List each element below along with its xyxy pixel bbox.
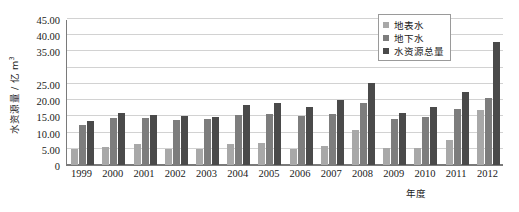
legend-label: 地表水 — [394, 18, 424, 32]
bar — [274, 103, 281, 165]
x-axis-tick-label: 2006 — [290, 168, 311, 179]
y-axis-tick-label: 25.00 — [36, 79, 60, 90]
bar — [360, 103, 367, 165]
x-axis-tick-label: 2005 — [258, 168, 279, 179]
y-axis-tick-label: 45.00 — [36, 15, 60, 26]
bar — [321, 146, 328, 165]
bar — [142, 118, 149, 165]
legend-label: 地下水 — [394, 31, 424, 45]
y-axis-tick-labels: 05.0010.0015.0020.0025.0035.0040.0045.00 — [0, 20, 64, 166]
bar — [181, 116, 188, 165]
bar — [212, 117, 219, 165]
bar — [118, 113, 125, 165]
bar-group — [161, 20, 192, 165]
bar — [196, 149, 203, 165]
y-axis-tick-label: 5.00 — [42, 144, 60, 155]
x-axis-title: 年度 — [406, 186, 426, 200]
bar-group — [473, 20, 504, 165]
x-axis-tick-label: 1999 — [71, 168, 92, 179]
bar — [173, 120, 180, 165]
bar — [298, 116, 305, 165]
x-axis-tick-label: 2004 — [227, 168, 248, 179]
bar — [235, 115, 242, 165]
bar — [243, 105, 250, 165]
x-axis-tick-label: 2007 — [321, 168, 342, 179]
bar — [422, 117, 429, 165]
x-axis-tick-label: 2010 — [414, 168, 435, 179]
bar — [337, 100, 344, 165]
bar — [454, 109, 461, 165]
water-resources-bar-chart: 水资源量 / 亿 m3 05.0010.0015.0020.0025.0035.… — [0, 0, 519, 212]
x-axis-tick-label: 2000 — [102, 168, 123, 179]
x-axis-tick-label: 2001 — [134, 168, 155, 179]
y-axis-tick-label: 10.00 — [36, 128, 60, 139]
bar-group — [348, 20, 379, 165]
legend-item: 水资源总量 — [383, 44, 444, 57]
bar — [391, 119, 398, 165]
legend-item: 地下水 — [383, 31, 444, 44]
bar — [352, 130, 359, 165]
legend-item: 地表水 — [383, 18, 444, 31]
bar — [306, 107, 313, 165]
legend-swatch-icon — [383, 48, 389, 54]
bar — [414, 148, 421, 165]
y-axis-tick-label: 0 — [55, 161, 60, 172]
x-axis-tick-label: 2009 — [383, 168, 404, 179]
y-axis-tick-label: 20.00 — [36, 96, 60, 107]
bar — [266, 114, 273, 165]
bar-group — [67, 20, 98, 165]
x-axis-tick-label: 2002 — [165, 168, 186, 179]
x-axis-tick-label: 2011 — [446, 168, 467, 179]
bar-group — [317, 20, 348, 165]
x-axis-tick-label: 2012 — [477, 168, 498, 179]
bar-group — [254, 20, 285, 165]
bar-group — [223, 20, 254, 165]
bar — [110, 118, 117, 165]
bar — [399, 113, 406, 165]
bar-group — [129, 20, 160, 165]
bar — [150, 115, 157, 165]
bar — [134, 144, 141, 165]
bar — [204, 119, 211, 165]
legend-swatch-icon — [383, 35, 389, 41]
bar — [383, 148, 390, 165]
bar-group — [98, 20, 129, 165]
legend-swatch-icon — [383, 22, 389, 28]
bar — [227, 144, 234, 165]
bar — [368, 83, 375, 165]
y-axis-tick-label: 40.00 — [36, 31, 60, 42]
bar — [71, 149, 78, 165]
legend: 地表水地下水水资源总量 — [378, 14, 451, 61]
bar — [477, 110, 484, 165]
bar — [290, 149, 297, 165]
bar-group — [192, 20, 223, 165]
x-axis-tick-label: 2008 — [352, 168, 373, 179]
x-axis-tick-label: 2003 — [196, 168, 217, 179]
legend-label: 水资源总量 — [394, 44, 444, 58]
bar — [258, 143, 265, 165]
bar — [462, 92, 469, 165]
bar — [329, 114, 336, 165]
bar — [485, 98, 492, 165]
bar — [79, 125, 86, 165]
bar — [493, 42, 500, 165]
bar-group — [286, 20, 317, 165]
bar — [430, 107, 437, 165]
bar — [446, 140, 453, 165]
y-axis-tick-label: 35.00 — [36, 47, 60, 58]
bar — [87, 121, 94, 165]
x-axis-tick-labels: 1999200020012002200320042005200620072008… — [66, 168, 503, 184]
y-axis-tick-label: 15.00 — [36, 112, 60, 123]
bar — [165, 149, 172, 165]
bar — [102, 147, 109, 165]
